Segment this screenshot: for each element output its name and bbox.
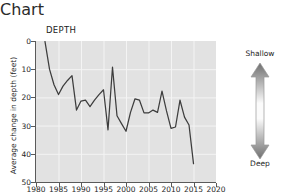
y-tick-mark	[31, 69, 35, 70]
depth-chart-figure: DEPTH 01020304050 Average change in dept…	[0, 19, 289, 195]
y-axis-label: Average change in depth (feet)	[9, 46, 18, 186]
y-tick-mark	[31, 97, 35, 98]
y-tick-label-0: 0	[9, 37, 31, 46]
y-tick-mark	[31, 182, 35, 183]
data-series-line	[36, 41, 216, 182]
y-tick-mark	[31, 154, 35, 155]
legend-deep-label: Deep	[232, 159, 288, 168]
depth-legend: Shallow Deep	[232, 49, 288, 171]
x-tick-label-2020: 2020	[201, 185, 231, 194]
chart-title: DEPTH	[46, 25, 76, 35]
legend-shallow-label: Shallow	[232, 49, 288, 58]
y-tick-mark	[31, 41, 35, 42]
y-tick-mark	[31, 126, 35, 127]
double-headed-vertical-arrow-icon	[250, 63, 270, 159]
